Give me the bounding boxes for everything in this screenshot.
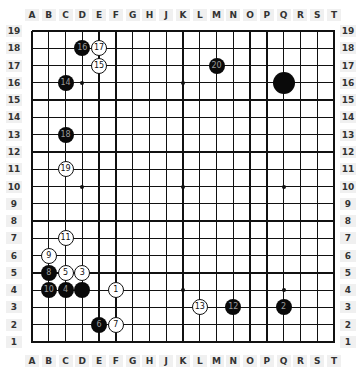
- column-label-bottom: S: [310, 355, 324, 367]
- grid-line-col-O: [249, 31, 250, 343]
- column-label-bottom: J: [159, 355, 173, 367]
- column-label-top: R: [293, 9, 307, 21]
- black-stone-D4[interactable]: [74, 282, 90, 298]
- column-label-top: Q: [277, 9, 291, 21]
- row-label-left: 2: [6, 319, 22, 331]
- black-stone-D18[interactable]: 16: [74, 40, 90, 56]
- star-point: [282, 288, 286, 292]
- column-label-top: M: [210, 9, 224, 21]
- row-label-left: 16: [6, 77, 22, 89]
- black-stone-E2[interactable]: 6: [91, 317, 107, 333]
- row-label-right: 1: [340, 336, 356, 348]
- row-label-right: 12: [340, 146, 356, 158]
- row-label-left: 5: [6, 267, 22, 279]
- black-stone-C4[interactable]: 4: [58, 282, 74, 298]
- row-label-right: 19: [340, 25, 356, 37]
- column-label-bottom: H: [142, 355, 156, 367]
- row-label-right: 18: [340, 42, 356, 54]
- row-label-right: 5: [340, 267, 356, 279]
- row-label-right: 11: [340, 163, 356, 175]
- column-label-bottom: B: [42, 355, 56, 367]
- star-point: [80, 185, 84, 189]
- white-stone-F2[interactable]: 7: [108, 317, 124, 333]
- row-label-right: 6: [340, 250, 356, 262]
- grid-line-row-6: [32, 255, 335, 256]
- column-label-top: B: [42, 9, 56, 21]
- column-label-bottom: G: [126, 355, 140, 367]
- row-label-left: 19: [6, 25, 22, 37]
- white-stone-C7[interactable]: 11: [58, 230, 74, 246]
- row-label-left: 12: [6, 146, 22, 158]
- row-label-left: 8: [6, 215, 22, 227]
- black-stone-M17[interactable]: 20: [209, 58, 225, 74]
- column-label-bottom: D: [75, 355, 89, 367]
- black-stone-N3[interactable]: 12: [225, 299, 241, 315]
- white-stone-F4[interactable]: 1: [108, 282, 124, 298]
- row-label-right: 14: [340, 111, 356, 123]
- grid-line-col-L: [199, 31, 200, 343]
- column-label-top: S: [310, 9, 324, 21]
- row-label-right: 4: [340, 284, 356, 296]
- column-label-top: J: [159, 9, 173, 21]
- black-stone-C16[interactable]: 14: [58, 75, 74, 91]
- grid-line-row-8: [32, 220, 335, 221]
- row-label-right: 16: [340, 77, 356, 89]
- column-label-top: N: [226, 9, 240, 21]
- white-stone-L3[interactable]: 13: [192, 299, 208, 315]
- row-label-right: 8: [340, 215, 356, 227]
- grid-line-row-1: [32, 341, 335, 343]
- black-stone-B4[interactable]: 10: [41, 282, 57, 298]
- row-label-right: 2: [340, 319, 356, 331]
- white-stone-D5[interactable]: 3: [74, 265, 90, 281]
- row-label-right: 17: [340, 60, 356, 72]
- column-label-top: O: [243, 9, 257, 21]
- row-label-left: 15: [6, 94, 22, 106]
- row-label-left: 17: [6, 60, 22, 72]
- go-board: AABBCCDDEEFFGGHHJJKKLLMMNNOOPPQQRRSSTT19…: [0, 0, 363, 381]
- column-label-bottom: K: [176, 355, 190, 367]
- black-stone-C13[interactable]: 18: [58, 127, 74, 143]
- grid-line-col-T: [333, 31, 335, 343]
- column-label-bottom: F: [109, 355, 123, 367]
- column-label-bottom: R: [293, 355, 307, 367]
- column-label-top: C: [59, 9, 73, 21]
- white-stone-C5[interactable]: 5: [58, 265, 74, 281]
- column-label-bottom: L: [193, 355, 207, 367]
- column-label-bottom: T: [327, 355, 341, 367]
- column-label-bottom: M: [210, 355, 224, 367]
- white-stone-E17[interactable]: 15: [91, 58, 107, 74]
- row-label-right: 15: [340, 94, 356, 106]
- star-point: [282, 185, 286, 189]
- black-stone-Q3[interactable]: 2: [276, 299, 292, 315]
- grid-line-row-2: [32, 324, 335, 325]
- white-stone-E18[interactable]: 17: [91, 40, 107, 56]
- column-label-bottom: N: [226, 355, 240, 367]
- row-label-left: 7: [6, 232, 22, 244]
- grid-line-row-7: [32, 238, 335, 239]
- grid-line-col-S: [317, 31, 318, 343]
- row-label-left: 13: [6, 129, 22, 141]
- row-label-left: 11: [6, 163, 22, 175]
- row-label-left: 6: [6, 250, 22, 262]
- column-label-bottom: C: [59, 355, 73, 367]
- column-label-bottom: P: [260, 355, 274, 367]
- white-stone-B6[interactable]: 9: [41, 248, 57, 264]
- black-stone-B5[interactable]: 8: [41, 265, 57, 281]
- column-label-top: A: [25, 9, 39, 21]
- row-label-right: 10: [340, 181, 356, 193]
- star-point: [181, 185, 185, 189]
- column-label-top: G: [126, 9, 140, 21]
- black-stone-Q16[interactable]: [273, 72, 295, 94]
- row-label-left: 1: [6, 336, 22, 348]
- row-label-left: 4: [6, 284, 22, 296]
- row-label-left: 18: [6, 42, 22, 54]
- row-label-left: 10: [6, 181, 22, 193]
- column-label-top: K: [176, 9, 190, 21]
- column-label-top: P: [260, 9, 274, 21]
- grid-line-col-R: [300, 31, 301, 343]
- column-label-bottom: O: [243, 355, 257, 367]
- column-label-bottom: E: [92, 355, 106, 367]
- column-label-top: T: [327, 9, 341, 21]
- white-stone-C11[interactable]: 19: [58, 161, 74, 177]
- column-label-bottom: Q: [277, 355, 291, 367]
